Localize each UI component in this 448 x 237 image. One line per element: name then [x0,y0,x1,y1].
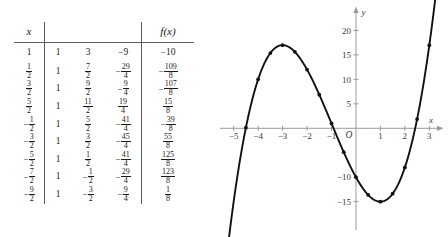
curve-data-point [256,77,260,81]
cell-coeff-a: 1 [45,116,72,134]
table-row: −721−12−2941238 [14,169,194,187]
cell-coeff-b: 32 [71,133,105,151]
x-axis-arrow [437,126,444,131]
table-row: 12172−294−1098 [14,63,194,81]
cell-fx: 558 [142,133,195,151]
cell-coeff-b: 72 [71,63,105,81]
column-header-fx: f(x) [142,22,195,43]
x-tick-label: 2 [403,131,408,141]
origin-label: O [346,130,353,140]
cell-coeff-b: −32 [71,186,105,204]
cell-fx: −398 [142,116,195,134]
curve-data-point [403,166,407,170]
x-tick-label: −5 [229,131,239,141]
table-row: 113−9−10 [14,43,194,64]
figure-page: x f(x) 113−9−1012172−294−109832192−94−10… [0,0,448,237]
cell-x: 1 [14,43,45,64]
curve-data-point [366,193,370,197]
x-axis-label: x [428,115,433,125]
cell-fx: −10 [142,43,195,64]
curve-data-point [391,192,395,196]
y-axis-arrow [353,7,358,14]
table-row: 521112194158 [14,98,194,116]
cell-x: −72 [14,169,45,187]
cell-coeff-b: 52 [71,116,105,134]
cell-coeff-b: 112 [71,98,105,116]
cell-coeff-c: −414 [105,151,142,169]
cell-coeff-c: −94 [105,81,142,99]
table-header-row: x f(x) [14,22,194,43]
cell-coeff-a: 1 [45,186,72,204]
table-row: −52112−4141258 [14,151,194,169]
curve-data-point [305,68,309,72]
synthetic-division-table: x f(x) 113−9−1012172−294−109832192−94−10… [14,22,194,204]
y-tick-label: −10 [337,172,352,182]
cell-coeff-b: 92 [71,81,105,99]
curve-data-point [330,121,334,125]
curve-data-point [293,50,297,54]
cell-coeff-a: 1 [45,43,72,64]
y-tick-label: 20 [342,26,352,36]
cell-fx: −1098 [142,63,195,81]
cell-coeff-a: 1 [45,133,72,151]
x-tick-label: 3 [427,131,432,141]
cell-coeff-c: −9 [105,43,142,64]
table-body: 113−9−1012172−294−109832192−94−107852111… [14,43,194,204]
cell-coeff-c: −294 [105,63,142,81]
x-tick-label: 1 [378,131,383,141]
x-tick-label: −4 [253,131,263,141]
x-tick-label: −2 [302,131,312,141]
curve-data-point [317,93,321,97]
cell-fx: 1258 [142,151,195,169]
cell-coeff-c: 194 [105,98,142,116]
y-tick-label: 15 [342,50,352,60]
curve-data-point [354,175,358,179]
synthetic-division-table-panel: x f(x) 113−9−1012172−294−109832192−94−10… [0,0,215,237]
cell-x: 52 [14,98,45,116]
y-tick-label: 5 [346,99,351,109]
cell-x: −92 [14,186,45,204]
curve-data-point [427,43,431,47]
table-row: −12152−414−398 [14,116,194,134]
cell-coeff-c: −454 [105,133,142,151]
cell-coeff-c: −294 [105,169,142,187]
table-row: 32192−94−1078 [14,81,194,99]
cubic-graph-svg: xyO−5−4−3−2−11232015105−10−15 [215,0,448,237]
cubic-graph-panel: xyO−5−4−3−2−11232015105−10−15 [215,0,448,237]
cell-coeff-a: 1 [45,151,72,169]
cell-coeff-b: 12 [71,151,105,169]
column-header-coeff-c [105,22,142,43]
y-tick-label: 10 [342,75,352,85]
curve-data-point [281,43,285,47]
curve-data-point [379,200,383,204]
cell-fx: 158 [142,98,195,116]
curve-data-point [268,51,272,55]
cell-x: 12 [14,63,45,81]
column-header-x: x [14,22,45,43]
column-header-coeff-a [45,22,72,43]
table-row: −921−32−9418 [14,186,194,204]
cubic-curve [226,0,437,237]
cell-x: −32 [14,133,45,151]
cell-coeff-a: 1 [45,81,72,99]
cell-coeff-b: −12 [71,169,105,187]
cell-coeff-c: −94 [105,186,142,204]
y-axis-label: y [360,7,365,17]
cell-x: −12 [14,116,45,134]
cell-coeff-a: 1 [45,98,72,116]
cell-fx: 1238 [142,169,195,187]
curve-data-point [244,126,248,130]
cell-x: −52 [14,151,45,169]
cell-fx: 18 [142,186,195,204]
cell-x: 32 [14,81,45,99]
cell-fx: −1078 [142,81,195,99]
cell-coeff-a: 1 [45,169,72,187]
curve-data-point [415,117,419,121]
curve-data-point [342,150,346,154]
column-header-coeff-b [71,22,105,43]
y-tick-label: −15 [337,197,352,207]
x-tick-label: −3 [278,131,288,141]
cell-coeff-b: 3 [71,43,105,64]
cell-coeff-c: −414 [105,116,142,134]
cell-coeff-a: 1 [45,63,72,81]
